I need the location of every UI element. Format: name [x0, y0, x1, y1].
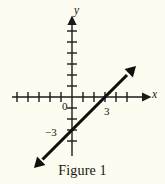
plotted-line-y-equals-x-minus-3: [34, 66, 136, 168]
y-intercept-label: −3: [45, 127, 57, 138]
origin-label: 0: [62, 101, 68, 112]
x-axis-label: x: [152, 89, 157, 101]
y-axis-label: y: [74, 5, 79, 17]
x-intercept-label: 3: [104, 106, 110, 117]
figure-caption: Figure 1: [0, 163, 165, 179]
figure-container: y x 0 3 −3 Figure 1: [0, 0, 165, 184]
y-axis-arrow-icon: [67, 16, 76, 26]
x-axis-arrow-icon: [142, 92, 152, 101]
coordinate-plane-graphic: [0, 0, 165, 184]
